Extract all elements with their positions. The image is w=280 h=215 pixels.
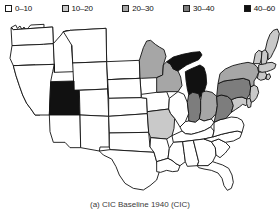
us-map-svg xyxy=(0,15,280,200)
legend-item-0[interactable]: 0–10 xyxy=(5,5,32,13)
legend-label-1: 10–20 xyxy=(72,5,93,13)
state-RI[interactable] xyxy=(266,74,271,80)
state-MN[interactable] xyxy=(139,40,166,78)
legend-item-1[interactable]: 10–20 xyxy=(62,5,93,13)
choropleth-figure: 0–10 10–20 20–30 30–40 40–60 xyxy=(0,0,280,215)
us-choropleth-map xyxy=(0,15,280,200)
state-NV[interactable] xyxy=(13,64,54,115)
legend-label-0: 0–10 xyxy=(15,5,32,13)
state-OK[interactable] xyxy=(109,132,154,152)
legend-swatch-icon-2 xyxy=(122,5,129,12)
state-OR[interactable] xyxy=(10,44,54,66)
map-legend: 0–10 10–20 20–30 30–40 40–60 xyxy=(0,1,280,16)
state-TX[interactable] xyxy=(99,150,159,190)
state-IN[interactable] xyxy=(187,92,200,122)
state-FL[interactable] xyxy=(197,162,233,191)
legend-swatch-icon-1 xyxy=(62,5,69,12)
state-KS[interactable] xyxy=(109,114,149,133)
state-WY[interactable] xyxy=(73,62,108,91)
legend-swatch-icon-0 xyxy=(5,5,12,12)
state-OH[interactable] xyxy=(199,91,217,121)
state-VT[interactable] xyxy=(253,50,262,63)
legend-label-3: 30–40 xyxy=(193,5,214,13)
legend-swatch-icon-3 xyxy=(183,5,190,12)
state-NJ[interactable] xyxy=(250,85,259,102)
legend-label-2: 20–30 xyxy=(132,5,153,13)
state-NM[interactable] xyxy=(80,115,109,151)
legend-swatch-icon-4 xyxy=(244,5,251,12)
legend-item-4[interactable]: 40–60 xyxy=(244,5,275,13)
state-MD[interactable] xyxy=(231,97,248,112)
legend-item-2[interactable]: 20–30 xyxy=(122,5,153,13)
state-WA-b[interactable] xyxy=(11,27,53,46)
legend-item-3[interactable]: 30–40 xyxy=(183,5,214,13)
state-AZ[interactable] xyxy=(49,115,80,148)
state-CO[interactable] xyxy=(79,89,108,116)
figure-caption: (a) CIC Baseline 1940 (CIC) xyxy=(0,200,280,215)
legend-label-4: 40–60 xyxy=(254,5,275,13)
state-ND[interactable] xyxy=(107,60,140,79)
state-NE[interactable] xyxy=(109,98,148,117)
state-SD-b[interactable] xyxy=(108,78,142,98)
